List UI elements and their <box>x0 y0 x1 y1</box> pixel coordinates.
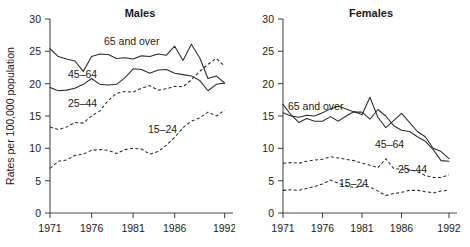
y-axis-title: Rates per 100,000 population <box>4 47 16 185</box>
males-ytick-15: 15 <box>29 110 41 122</box>
females-label-15-24: 15–24 <box>339 177 368 189</box>
females-label-65-and-over: 65 and over <box>288 100 344 112</box>
males-chart-svg: 0 5 10 15 20 25 30 1971 1976 1981 1986 1… <box>0 0 235 247</box>
chart-panel-males: 0 5 10 15 20 25 30 1971 1976 1981 1986 1… <box>0 0 235 247</box>
females-xtick-1986: 1986 <box>390 222 414 234</box>
females-xtick-1971: 1971 <box>271 222 295 234</box>
males-x-tick-labels: 1971 1976 1981 1986 1992 <box>38 222 235 234</box>
males-label-15-24: 15–24 <box>148 123 177 135</box>
females-ytick-30: 30 <box>262 13 274 25</box>
females-ytick-25: 25 <box>262 45 274 57</box>
figure-container: 0 5 10 15 20 25 30 1971 1976 1981 1986 1… <box>0 0 470 247</box>
males-xtick-1981: 1981 <box>121 222 145 234</box>
males-y-ticks <box>45 19 50 213</box>
chart-panel-females: 0 5 10 15 20 25 30 1971 1976 1981 1986 1… <box>235 0 470 247</box>
males-xtick-1971: 1971 <box>38 222 62 234</box>
males-ytick-0: 0 <box>35 207 41 219</box>
males-panel-title: Males <box>125 7 156 19</box>
females-ytick-10: 10 <box>262 142 274 154</box>
females-series-45-64 <box>283 106 449 161</box>
males-y-tick-labels: 0 5 10 15 20 25 30 <box>29 13 41 219</box>
females-label-45-64: 45–64 <box>375 138 404 150</box>
males-axes <box>45 19 233 218</box>
males-ytick-25: 25 <box>29 45 41 57</box>
females-x-ticks <box>283 213 449 218</box>
females-x-tick-labels: 1971 1976 1981 1986 1992 <box>271 222 461 234</box>
males-x-ticks <box>50 213 225 218</box>
males-series-labels: 65 and over 45–64 25–44 15–24 <box>68 35 177 135</box>
females-panel-title: Females <box>349 7 393 19</box>
females-chart-svg: 0 5 10 15 20 25 30 1971 1976 1981 1986 1… <box>235 0 470 247</box>
females-label-25-44: 25–44 <box>398 163 427 175</box>
females-xtick-1992: 1992 <box>437 222 461 234</box>
males-ytick-10: 10 <box>29 142 41 154</box>
males-ytick-30: 30 <box>29 13 41 25</box>
females-ytick-0: 0 <box>268 207 274 219</box>
females-ytick-20: 20 <box>262 78 274 90</box>
males-xtick-1976: 1976 <box>80 222 104 234</box>
males-ytick-20: 20 <box>29 78 41 90</box>
males-label-45-64: 45–64 <box>68 68 97 80</box>
females-y-ticks <box>278 19 283 213</box>
males-label-25-44: 25–44 <box>68 97 97 109</box>
males-xtick-1986: 1986 <box>163 222 187 234</box>
females-xtick-1981: 1981 <box>350 222 374 234</box>
females-ytick-15: 15 <box>262 110 274 122</box>
males-xtick-1992: 1992 <box>213 222 235 234</box>
females-ytick-5: 5 <box>268 175 274 187</box>
females-y-tick-labels: 0 5 10 15 20 25 30 <box>262 13 274 219</box>
females-xtick-1976: 1976 <box>311 222 335 234</box>
males-ytick-5: 5 <box>35 175 41 187</box>
males-series-15-24 <box>50 110 225 168</box>
males-label-65-and-over: 65 and over <box>104 35 160 47</box>
